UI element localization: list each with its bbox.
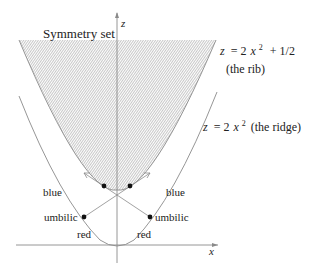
arrow-head-left <box>84 173 90 178</box>
umbilic-point-right <box>148 215 153 220</box>
symmetry-set-diagram: Symmetry set z x z = 2 x 2 + 1/2 (the ri… <box>0 0 312 277</box>
umbilic-label-left: umbilic <box>44 211 78 223</box>
red-label-right: red <box>137 228 152 240</box>
rib-point-right <box>128 184 133 189</box>
red-label-left: red <box>77 228 92 240</box>
rib-caption: (the rib) <box>226 62 265 76</box>
rib-equation: z = 2 x 2 + 1/2 <box>219 39 295 58</box>
umbilic-point-left <box>82 215 87 220</box>
x-axis-label: x <box>208 245 214 257</box>
z-axis-arrow-icon <box>115 12 119 18</box>
arrow-head-right <box>144 173 150 178</box>
blue-label-right: blue <box>166 186 185 198</box>
ridge-equation: z = 2 x 2 (the ridge) <box>202 115 301 134</box>
rib-point-left <box>102 184 107 189</box>
blue-label-left: blue <box>43 186 62 198</box>
umbilic-label-right: umbilic <box>155 211 189 223</box>
title-label: Symmetry set <box>43 26 115 41</box>
z-axis-label: z <box>120 17 126 29</box>
symmetry-set-region <box>19 40 216 190</box>
